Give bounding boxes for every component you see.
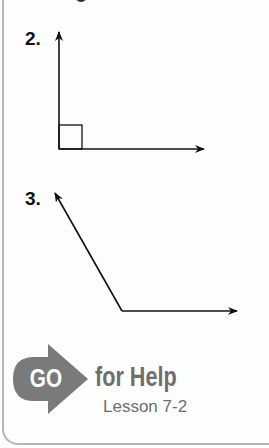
obtuse-angle-figure (55, 193, 237, 311)
right-angle-figure (59, 32, 204, 149)
help-title: for Help (95, 362, 177, 393)
lesson-reference: Lesson 7-2 (103, 397, 187, 417)
go-label: GO (23, 355, 69, 401)
